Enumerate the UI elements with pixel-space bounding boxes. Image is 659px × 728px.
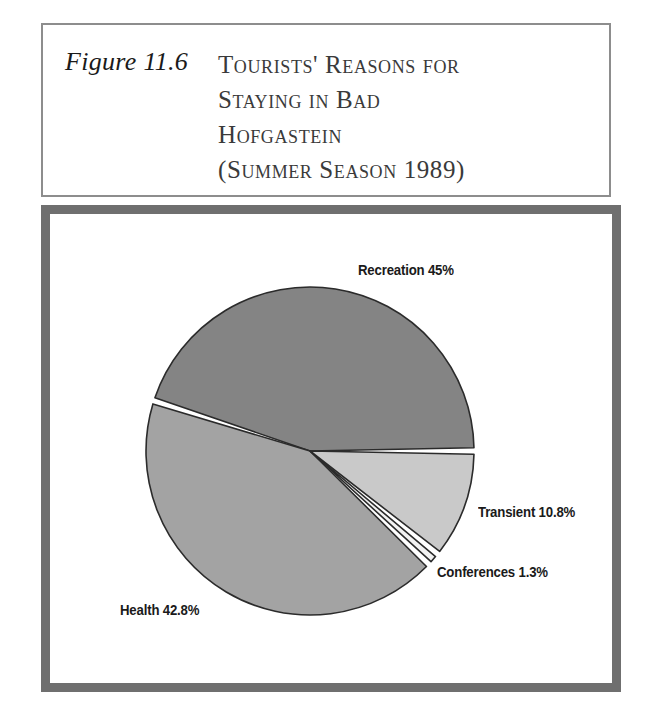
pie-label-conferences: Conferences 1.3% — [437, 563, 548, 580]
pie-label-transient: Transient 10.8% — [478, 503, 575, 520]
figure-root: Figure 11.6 Tourists' Reasons for Stayin… — [0, 0, 659, 728]
pie-label-recreation: Recreation 45% — [358, 261, 454, 278]
pie-label-health: Health 42.8% — [120, 601, 199, 618]
figure-title-line-2: Staying in Bad — [218, 82, 608, 117]
figure-title-line-4: (Summer Season 1989) — [218, 152, 608, 187]
figure-title: Tourists' Reasons for Staying in Bad Hof… — [218, 47, 608, 187]
chart-frame — [41, 205, 621, 692]
figure-title-line-1: Tourists' Reasons for — [218, 47, 608, 82]
figure-title-line-3: Hofgastein — [218, 117, 608, 152]
figure-number: Figure 11.6 — [65, 47, 188, 77]
figure-caption-box: Figure 11.6 Tourists' Reasons for Stayin… — [41, 23, 611, 197]
